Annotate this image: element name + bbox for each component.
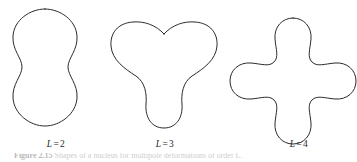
- figure-caption-clipped: Figure 2.15 Shapes of a nucleus for mult…: [14, 153, 344, 162]
- label-value-l3: 3: [169, 139, 174, 149]
- shape-label-l4: L=4: [290, 139, 308, 149]
- label-value-l2: 2: [60, 139, 65, 149]
- label-variable-l3: L: [156, 139, 162, 149]
- four-lobed-star-shape: [230, 18, 356, 144]
- label-value-l4: 4: [303, 139, 308, 149]
- shapes-canvas: [0, 0, 357, 162]
- shape-label-l2: L=2: [47, 139, 65, 149]
- shape-label-l3: L=3: [156, 139, 174, 149]
- triangular-trilobed-shape: [111, 22, 217, 128]
- label-variable-l4: L: [290, 139, 296, 149]
- figure-caption-lead: Figure 2.15: [14, 153, 53, 160]
- figure-container: L=2 L=3 L=4 Figure 2.15 Shapes of a nucl…: [0, 0, 357, 162]
- figure-caption-text: Figure 2.15 Shapes of a nucleus for mult…: [14, 153, 344, 160]
- label-variable-l2: L: [47, 139, 53, 149]
- quadrupole-peanut-shape: [13, 9, 77, 126]
- figure-caption-rest: Shapes of a nucleus for multipole deform…: [53, 153, 243, 160]
